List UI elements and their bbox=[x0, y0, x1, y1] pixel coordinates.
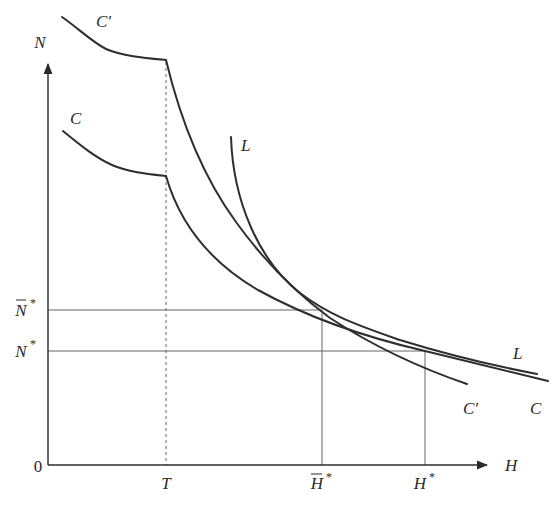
svg-text:*: * bbox=[30, 296, 36, 310]
svg-text:*: * bbox=[429, 470, 435, 484]
y-tick-n-star: N * bbox=[14, 337, 36, 361]
svg-text:H: H bbox=[310, 474, 325, 493]
curve-c bbox=[63, 131, 548, 381]
curve-l-label-top: L bbox=[240, 136, 250, 155]
curve-c-label-bottom: C bbox=[530, 399, 542, 418]
x-tick-h-bar-star: H * bbox=[310, 470, 332, 493]
svg-text:*: * bbox=[30, 337, 36, 351]
svg-text:N: N bbox=[14, 301, 28, 320]
origin-label: 0 bbox=[34, 457, 43, 476]
y-axis-label: N bbox=[33, 33, 47, 52]
x-axis-label: H bbox=[504, 456, 519, 475]
curve-l bbox=[231, 137, 537, 374]
economic-diagram: N H 0 T H * H * N * N * C′ C L L C′ C bbox=[0, 0, 558, 508]
svg-text:*: * bbox=[326, 470, 332, 484]
x-tick-t: T bbox=[161, 474, 172, 493]
curve-l-label-bottom: L bbox=[512, 344, 522, 363]
y-tick-n-bar-star: N * bbox=[14, 296, 36, 320]
svg-text:N: N bbox=[14, 342, 28, 361]
x-tick-h-star: H * bbox=[413, 470, 435, 493]
curve-c-prime bbox=[62, 17, 467, 384]
curve-c-label-top: C bbox=[70, 109, 82, 128]
curve-c-prime-label-top: C′ bbox=[96, 12, 111, 31]
svg-text:H: H bbox=[413, 474, 428, 493]
curve-c-prime-label-bottom: C′ bbox=[463, 399, 478, 418]
